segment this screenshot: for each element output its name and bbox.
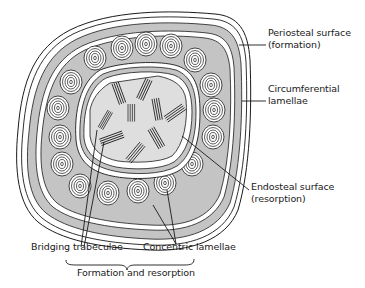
bridging-trabeculae-label: Bridging trabeculae bbox=[31, 241, 123, 253]
circumferential-label-line1: Circumferential bbox=[268, 83, 340, 95]
periosteal-label-line1: Periosteal surface bbox=[268, 27, 351, 39]
endosteal-label-line2: (resorption) bbox=[251, 193, 334, 205]
periosteal-label-line2: (formation) bbox=[268, 39, 351, 51]
concentric-lamellae-label: Concentric lamellae bbox=[143, 241, 236, 253]
formation-resorption-label: Formation and resorption bbox=[77, 267, 195, 279]
circumferential-label: Circumferential lamellae bbox=[268, 83, 340, 107]
periosteal-label: Periosteal surface (formation) bbox=[268, 27, 351, 51]
endosteal-label-line1: Endosteal surface bbox=[251, 181, 334, 193]
endosteal-surface bbox=[76, 63, 200, 179]
circumferential-label-line2: lamellae bbox=[268, 95, 340, 107]
endosteal-label: Endosteal surface (resorption) bbox=[251, 181, 334, 205]
